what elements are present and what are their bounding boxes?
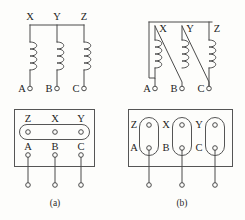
external-terminal-b[interactable]	[53, 183, 58, 188]
coil-y	[57, 42, 64, 70]
stud-label-x: X	[162, 119, 170, 130]
stud-b[interactable]	[180, 146, 185, 151]
stud-label-c: C	[195, 142, 202, 153]
stud-label-a: A	[24, 141, 32, 152]
coil-group-y	[57, 25, 64, 86]
stud-z[interactable]	[147, 123, 152, 128]
external-terminal-b[interactable]	[180, 183, 185, 188]
terminal-b[interactable]	[55, 86, 60, 91]
stud-label-x: X	[51, 113, 59, 124]
stud-c[interactable]	[213, 146, 218, 151]
external-terminal-c[interactable]	[79, 183, 84, 188]
panel-star-winding-schematic: X Y Z A	[0, 0, 122, 104]
terminal-label-c: C	[197, 83, 204, 94]
stud-z[interactable]	[26, 130, 31, 135]
stud-label-z: Z	[25, 113, 31, 124]
stud-label-b: B	[162, 142, 169, 153]
stud-b[interactable]	[53, 153, 58, 158]
terminal-c[interactable]	[207, 86, 212, 91]
coil-group-y	[182, 26, 209, 86]
stud-y[interactable]	[79, 130, 84, 135]
stud-y[interactable]	[213, 123, 218, 128]
coil-group-z	[84, 25, 91, 86]
external-terminal-c[interactable]	[213, 183, 218, 188]
caption-b: (b)	[176, 198, 187, 209]
link-group-y-c: Y C	[195, 118, 224, 188]
stud-label-b: B	[51, 141, 58, 152]
link-group-x-b: X B	[162, 118, 191, 188]
link-group-z-a: Z A	[130, 118, 158, 188]
stud-label-a: A	[130, 142, 138, 153]
winding-label-z: Z	[214, 23, 220, 34]
winding-label-y: Y	[53, 11, 61, 22]
terminal-label-b: B	[170, 83, 177, 94]
winding-label-x: X	[26, 11, 34, 22]
external-terminal-a[interactable]	[147, 183, 152, 188]
coil-group-x	[30, 25, 37, 86]
terminal-b[interactable]	[180, 86, 185, 91]
terminal-a[interactable]	[153, 86, 158, 91]
stud-a[interactable]	[26, 153, 31, 158]
stud-label-y: Y	[77, 113, 85, 124]
stud-x[interactable]	[180, 123, 185, 128]
winding-label-z: Z	[81, 11, 87, 22]
delta-diagonal-x-to-b	[155, 26, 182, 86]
terminal-label-c: C	[72, 83, 79, 94]
terminal-a[interactable]	[28, 86, 33, 91]
stud-label-y: Y	[195, 119, 203, 130]
stud-label-z: Z	[131, 119, 137, 130]
panel-delta-winding-schematic: X Y Z A B C	[122, 0, 245, 104]
coil-z	[209, 40, 216, 68]
delta-diagonal-y-to-c	[182, 26, 209, 86]
coil-group-x	[155, 26, 182, 86]
winding-label-y: Y	[186, 23, 194, 34]
terminal-label-a: A	[18, 83, 26, 94]
winding-label-x: X	[159, 23, 167, 34]
stud-label-c: C	[77, 141, 84, 152]
coil-x	[30, 42, 37, 70]
coil-x	[155, 40, 162, 68]
coil-z	[84, 42, 91, 70]
figure-root: X Y Z A	[0, 0, 245, 220]
stud-a[interactable]	[147, 146, 152, 151]
external-terminal-a[interactable]	[26, 183, 31, 188]
terminal-label-b: B	[45, 83, 52, 94]
stud-c[interactable]	[79, 153, 84, 158]
terminal-label-a: A	[143, 83, 151, 94]
caption-a: (a)	[50, 198, 61, 209]
panel-terminal-board-star: Z X Y A B C (a)	[0, 104, 122, 220]
coil-y	[182, 40, 189, 68]
delta-left-return	[149, 22, 155, 86]
terminal-c[interactable]	[82, 86, 87, 91]
panel-terminal-board-delta: Z A X B Y C	[122, 104, 245, 220]
stud-x[interactable]	[53, 130, 58, 135]
